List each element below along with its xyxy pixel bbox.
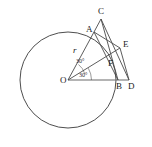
point-label-E: E (123, 39, 129, 49)
point-label-C: C (98, 6, 104, 16)
point-label-D: D (128, 81, 135, 91)
angle-arc-lower (88, 68, 91, 80)
radius-label: r (73, 45, 77, 55)
angle-label-upper: 30° (76, 58, 85, 64)
point-label-A: A (86, 24, 93, 34)
point-label-F: F (108, 58, 113, 68)
point-label-O: O (60, 75, 67, 85)
angle-label-lower: 30° (79, 72, 88, 78)
point-label-B: B (116, 81, 122, 91)
figure-canvas: O A C E F B D r 30° 30° (0, 0, 152, 147)
segment-A-C (94, 19, 101, 32)
geometry-figure: O A C E F B D r 30° 30° (0, 0, 152, 147)
